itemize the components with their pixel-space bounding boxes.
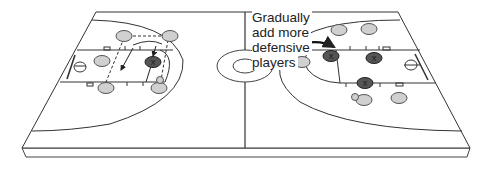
annotation-label: Gradually add more defensive players [252,10,332,70]
annotation-line-2: add more [252,25,311,40]
svg-text:X: X [363,80,368,87]
offense-player [391,93,407,104]
svg-text:X: X [372,55,377,62]
left-defense-player: X [145,57,161,68]
offense-player [94,56,110,67]
offense-player [331,25,347,36]
annotation-line-1: Gradually [252,10,312,25]
ball [157,77,164,84]
offense-player [162,31,178,42]
svg-text:X: X [151,59,156,66]
annotation-line-3: defensive [252,40,312,55]
basketball-court-diagram: X X X [0,0,494,172]
ball [352,94,359,101]
court-base [22,148,470,157]
annotation-line-4: players [252,55,298,70]
offense-player [98,83,114,94]
offense-player [151,83,167,94]
offense-player [361,24,377,35]
offense-player [116,31,132,42]
